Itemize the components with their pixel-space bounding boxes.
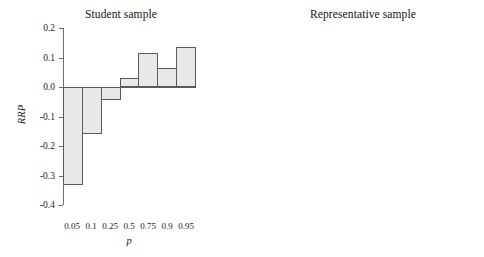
y-axis-tick-label: -0.3 (21, 171, 55, 181)
x-axis-tick-label: 0.05 (64, 221, 80, 231)
x-axis-tick-label: 0.25 (102, 221, 118, 231)
zero-baseline (63, 87, 196, 88)
bar (82, 87, 102, 134)
x-axis-tick-label: 0.9 (161, 221, 172, 231)
plot-area-student: 0.20.10.0-0.1-0.2-0.3-0.4RRP0.050.10.250… (0, 0, 242, 257)
figure-two-panel-bar-charts: Student sample 0.20.10.0-0.1-0.2-0.3-0.4… (0, 0, 484, 257)
panel-student-sample: Student sample 0.20.10.0-0.1-0.2-0.3-0.4… (0, 0, 242, 257)
plot-area-representative: 0.20.10.0-0.1-0.2RRP0.050.10.250.50.750.… (242, 0, 484, 257)
y-axis-tick-label: 0.1 (21, 53, 55, 63)
bar (101, 87, 121, 100)
bar (63, 87, 83, 185)
x-axis-tick-label: 0.95 (178, 221, 194, 231)
x-axis-tick-label: 0.1 (85, 221, 96, 231)
y-axis-tick-label: 0.2 (21, 23, 55, 33)
y-axis-title: RRP (16, 84, 27, 144)
x-axis-title: p (63, 235, 195, 246)
y-axis-tick (59, 205, 63, 206)
x-axis-tick-label: 0.75 (140, 221, 156, 231)
x-axis-tick-label: 0.5 (123, 221, 134, 231)
bar (120, 78, 140, 87)
y-axis-tick (59, 58, 63, 59)
bar (176, 47, 196, 87)
y-axis-tick-label: -0.4 (21, 200, 55, 210)
y-axis-tick (59, 28, 63, 29)
bar (138, 53, 158, 87)
bar (157, 68, 177, 87)
panel-representative-sample: Representative sample 0.20.10.0-0.1-0.2R… (242, 0, 484, 257)
